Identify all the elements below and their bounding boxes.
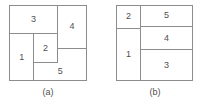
figure-root: 3 4 1 2 5 (a) 2 1 5 4 3 bbox=[0, 0, 205, 104]
region-a-4: 4 bbox=[58, 6, 86, 49]
region-a-1: 1 bbox=[10, 34, 34, 80]
region-label: 3 bbox=[31, 15, 36, 24]
region-b-2: 2 bbox=[117, 6, 141, 29]
region-label: 1 bbox=[126, 50, 131, 59]
panel-caption-b: (b) bbox=[116, 88, 194, 97]
region-label: 5 bbox=[58, 67, 63, 76]
region-b-3: 3 bbox=[141, 50, 192, 80]
region-label: 3 bbox=[164, 61, 169, 70]
packing-diagram-b: 2 1 5 4 3 bbox=[116, 5, 193, 81]
region-a-2: 2 bbox=[34, 34, 58, 63]
panel-caption-a: (a) bbox=[9, 88, 87, 97]
region-b-1: 1 bbox=[117, 29, 141, 80]
region-label: 4 bbox=[69, 22, 74, 31]
region-label: 2 bbox=[126, 12, 131, 21]
packing-diagram-a: 3 4 1 2 5 bbox=[9, 5, 87, 81]
region-b-4: 4 bbox=[141, 27, 192, 51]
region-label: 5 bbox=[164, 11, 169, 20]
region-a-3: 3 bbox=[10, 6, 58, 34]
region-label: 2 bbox=[43, 44, 48, 53]
region-label: 1 bbox=[19, 53, 24, 62]
region-a-5: 5 bbox=[34, 63, 86, 80]
region-label: 4 bbox=[164, 34, 169, 43]
region-b-5: 5 bbox=[141, 6, 192, 27]
